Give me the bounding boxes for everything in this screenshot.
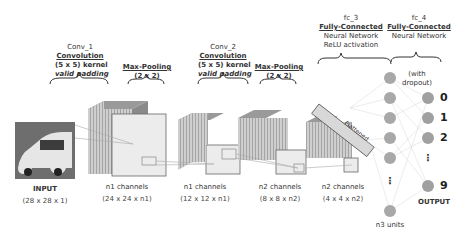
input-image <box>15 122 75 179</box>
pool1-label: Max-Pooling (2 x 2) <box>122 63 172 81</box>
stage-input-label: INPUT <box>10 185 80 194</box>
dropout-note: (with dropout) <box>402 70 432 88</box>
pool1-kernel: (2 x 2) <box>122 72 172 81</box>
stage-pool2-label: n2 channels <box>308 183 378 192</box>
conv2-label: Conv_2 Convolution (5 x 5) kernel valid … <box>198 43 248 79</box>
fc4-label: fc_4 Fully-Connected Neural Network <box>384 14 454 41</box>
output-digit-9: 9 <box>440 179 448 192</box>
pool1-type: Max-Pooling <box>122 63 172 72</box>
conv1-kernel: (5 x 5) kernel <box>55 61 105 70</box>
hidden-ellipsis: ⋮ <box>384 176 396 185</box>
dropout-note-line1: (with <box>402 70 432 79</box>
stage-pool2-dims: (4 x 4 x n2) <box>308 195 378 204</box>
fc3-desc1: Neural Network <box>316 32 386 41</box>
stage-conv1-dims: (24 x 24 x n1) <box>92 195 162 204</box>
conv1-name: Conv_1 <box>55 43 105 52</box>
stage-conv1-label: n1 channels <box>92 183 162 192</box>
pool2-label: Max-Pooling (2 x 2) <box>254 63 304 81</box>
pool2-kernel: (2 x 2) <box>254 72 304 81</box>
conv1-padding: valid padding <box>55 70 105 79</box>
output-ellipsis: ⋮ <box>422 153 434 162</box>
pool2-type: Max-Pooling <box>254 63 304 72</box>
fc3-desc2: ReLU activation <box>316 41 386 50</box>
fc3-label: fc_3 Fully-Connected Neural Network ReLU… <box>316 14 386 50</box>
fc3-type: Fully-Connected <box>316 23 386 32</box>
fc4-type: Fully-Connected <box>384 23 454 32</box>
fc4-desc1: Neural Network <box>384 32 454 41</box>
fc4-name: fc_4 <box>384 14 454 23</box>
output-digit-1: 1 <box>440 111 448 124</box>
output-digit-2: 2 <box>440 131 448 144</box>
stage-pool2-output: n2 channels (4 x 4 x n2) <box>308 183 378 204</box>
stage-input: INPUT (28 x 28 x 1) <box>10 185 80 206</box>
stage-conv1-output: n1 channels (24 x 24 x n1) <box>92 183 162 204</box>
conv2-name: Conv_2 <box>198 43 248 52</box>
stage-conv2-label: n2 channels <box>245 183 315 192</box>
stage-input-dims: (28 x 28 x 1) <box>10 197 80 206</box>
conv2-kernel: (5 x 5) kernel <box>198 61 248 70</box>
hidden-units-label: n3 units <box>372 221 408 230</box>
conv1-label: Conv_1 Convolution (5 x 5) kernel valid … <box>55 43 105 79</box>
conv2-type: Convolution <box>198 52 248 61</box>
stage-pool1-dims: (12 x 12 x n1) <box>170 195 240 204</box>
output-label: OUTPUT <box>414 198 454 207</box>
conv1-type: Convolution <box>55 52 105 61</box>
stage-conv2-dims: (8 x 8 x n2) <box>245 195 315 204</box>
dropout-note-line2: dropout) <box>402 79 432 88</box>
fc3-name: fc_3 <box>316 14 386 23</box>
stage-conv2-output: n2 channels (8 x 8 x n2) <box>245 183 315 204</box>
output-digit-0: 0 <box>440 91 448 104</box>
stage-pool1-label: n1 channels <box>170 183 240 192</box>
stage-pool1-output: n1 channels (12 x 12 x n1) <box>170 183 240 204</box>
conv2-padding: valid padding <box>198 70 248 79</box>
